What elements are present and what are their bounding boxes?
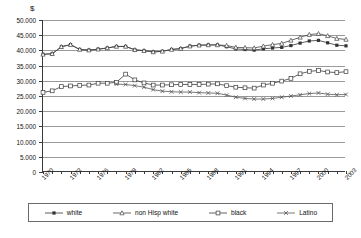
legend-label: Latino — [299, 209, 317, 216]
legend-label: white — [67, 209, 82, 216]
y-axis-tick-label: 15.000 — [16, 123, 36, 130]
data-point-marker — [50, 89, 54, 93]
data-point-marker — [59, 85, 63, 89]
legend-label: black — [231, 209, 246, 216]
data-point-marker — [289, 44, 292, 47]
data-point-marker — [216, 211, 220, 215]
data-point-marker — [170, 83, 174, 87]
y-axis-tick-label: 50.000 — [16, 17, 36, 24]
y-axis-tick-label: 45.000 — [16, 32, 36, 39]
y-axis-tick-label: 25.000 — [16, 93, 36, 100]
data-point-marker — [335, 71, 339, 75]
y-axis-tick-label: 35.000 — [16, 62, 36, 69]
data-point-marker — [261, 83, 265, 87]
data-point-marker — [225, 84, 229, 88]
data-point-marker — [124, 72, 128, 76]
legend-label: non Hisp white — [135, 209, 178, 216]
data-point-marker — [298, 72, 302, 76]
data-point-marker — [151, 83, 155, 87]
data-point-marker — [87, 83, 91, 87]
legend-item-white[interactable]: white — [44, 209, 82, 217]
y-axis-unit-label: $ — [30, 4, 34, 13]
y-axis-tick-label: 40.000 — [16, 47, 36, 54]
data-point-marker — [271, 46, 274, 49]
data-point-marker — [179, 83, 183, 87]
legend-item-black[interactable]: black — [208, 209, 246, 217]
data-point-marker — [252, 86, 256, 90]
data-point-marker — [52, 211, 55, 214]
data-point-marker — [216, 82, 220, 86]
chart-legend: whitenon Hisp whiteblackLatino — [28, 203, 333, 222]
series-white — [41, 39, 347, 56]
y-axis-tick-label: 10.000 — [16, 138, 36, 145]
series-lines-group — [43, 20, 346, 172]
data-point-marker — [160, 83, 164, 87]
series-black — [41, 69, 348, 95]
series-non-hisp-white — [41, 31, 348, 56]
data-point-marker — [197, 83, 201, 87]
data-point-marker — [243, 86, 247, 90]
data-point-marker — [133, 78, 137, 82]
data-point-marker — [298, 42, 301, 45]
data-point-marker — [326, 70, 330, 74]
data-point-marker — [234, 85, 238, 89]
data-point-marker — [206, 82, 210, 86]
data-point-marker — [96, 81, 100, 85]
y-axis-tick-label: 5.000 — [20, 153, 36, 160]
y-axis-tick-label: 0 — [32, 169, 36, 176]
legend-marker-x-icon — [276, 209, 296, 217]
data-point-marker — [326, 41, 329, 44]
series-latino — [115, 82, 348, 101]
data-point-marker — [289, 76, 293, 80]
legend-item-non-hisp-white[interactable]: non Hisp white — [112, 209, 178, 217]
data-point-marker — [280, 46, 283, 49]
legend-marker-open-triangle-icon — [112, 209, 132, 217]
chart-container: $ 50.00045.00040.00035.00030.00025.00020… — [0, 0, 361, 238]
plot-area — [42, 20, 345, 172]
data-point-marker — [78, 83, 82, 87]
legend-item-latino[interactable]: Latino — [276, 209, 317, 217]
data-point-marker — [41, 90, 45, 94]
legend-marker-open-square-icon — [208, 209, 228, 217]
data-point-marker — [317, 69, 321, 73]
data-point-marker — [69, 84, 73, 88]
data-point-marker — [344, 44, 347, 47]
data-point-marker — [344, 70, 348, 74]
data-point-marker — [142, 81, 146, 85]
legend-marker-filled-square-icon — [44, 209, 64, 217]
data-point-marker — [188, 83, 192, 87]
data-point-marker — [271, 81, 275, 85]
y-axis-tick-label: 20.000 — [16, 108, 36, 115]
data-point-marker — [307, 69, 311, 73]
data-point-marker — [335, 44, 338, 47]
data-point-marker — [317, 39, 320, 42]
data-point-marker — [308, 39, 311, 42]
y-axis-tick-label: 30.000 — [16, 77, 36, 84]
data-point-marker — [280, 79, 284, 83]
data-point-marker — [105, 81, 109, 85]
